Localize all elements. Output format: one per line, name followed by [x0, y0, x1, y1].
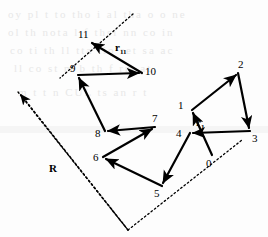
node-label-10: 10 — [145, 66, 156, 77]
polymer-chain-figure: oy pl t to tho i al tha o o ne ol th not… — [0, 0, 268, 237]
bond-9-10 — [78, 73, 139, 75]
node-label-3: 3 — [252, 133, 258, 144]
node-label-1: 1 — [178, 100, 184, 111]
node-label-11: 11 — [78, 29, 89, 40]
vector-label-r11: r11 — [115, 42, 127, 56]
node-label-0: 0 — [206, 158, 212, 169]
bond-2-3 — [238, 73, 249, 128]
node-label-2: 2 — [238, 59, 244, 70]
bond-6-7 — [103, 129, 152, 157]
vector-label-r1-sub: 1 — [201, 123, 205, 131]
bond-8-9 — [79, 78, 105, 131]
node-label-7: 7 — [152, 113, 158, 124]
guide-bottom-line — [128, 140, 242, 230]
node-label-8: 8 — [95, 128, 101, 139]
node-label-6: 6 — [93, 152, 99, 163]
vector-label-R: R — [49, 163, 57, 174]
bond-5-6 — [106, 159, 162, 186]
bond-1-2 — [192, 75, 236, 110]
node-label-5: 5 — [154, 188, 160, 199]
bond-4-5 — [163, 133, 190, 183]
node-label-9: 9 — [70, 63, 76, 74]
node-label-4: 4 — [176, 128, 182, 139]
vector-label-r1: r1 — [196, 117, 204, 131]
chain-canvas — [0, 0, 268, 237]
vector-label-r11-sub: 11 — [120, 48, 127, 56]
